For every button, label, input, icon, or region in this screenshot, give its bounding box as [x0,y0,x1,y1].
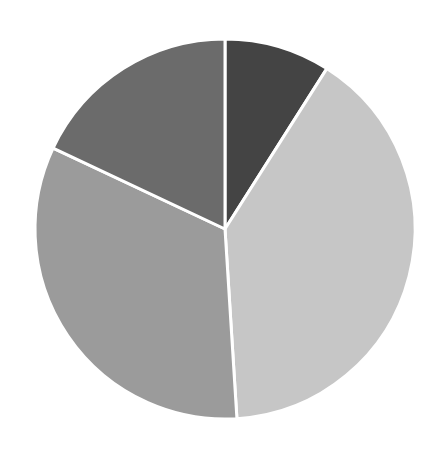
pie-slices [35,39,415,419]
pie-chart [0,0,443,449]
